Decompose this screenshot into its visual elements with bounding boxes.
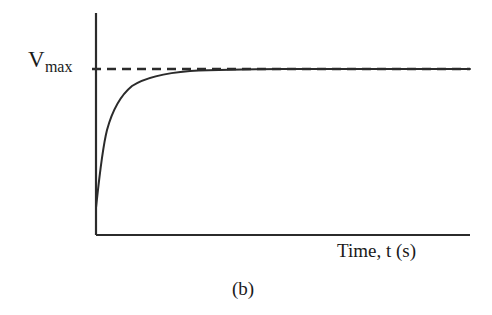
figure-caption: (b) [0, 279, 492, 298]
y-axis-label: Vmax [28, 48, 72, 75]
velocity-curve [96, 69, 470, 208]
figure-caption-text: (b) [232, 279, 254, 298]
y-axis-label-subscript: max [45, 58, 73, 75]
plot-area [0, 0, 492, 315]
y-axis-label-main: V [28, 47, 45, 72]
x-axis-label: Time, t (s) [337, 241, 416, 260]
figure-panel-b: Vmax Time, t (s) (b) [0, 0, 492, 315]
